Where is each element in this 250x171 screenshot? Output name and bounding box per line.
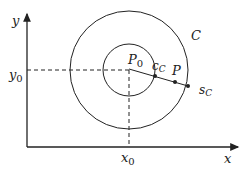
point-cc <box>153 74 157 78</box>
p-label: P <box>171 63 181 78</box>
cc-label: cC <box>152 59 166 74</box>
diagram: y x y0 x0 P0 C cC P sC <box>0 0 250 171</box>
center-label: P0 <box>127 52 143 69</box>
x0-label: x0 <box>121 150 135 167</box>
y0-label: y0 <box>8 67 23 84</box>
outer-circle-label: C <box>191 28 201 43</box>
point-sc <box>186 84 190 88</box>
sc-label: sC <box>199 83 212 98</box>
y-axis-label: y <box>11 13 20 28</box>
point-p <box>173 80 177 84</box>
x-axis-label: x <box>224 151 232 166</box>
